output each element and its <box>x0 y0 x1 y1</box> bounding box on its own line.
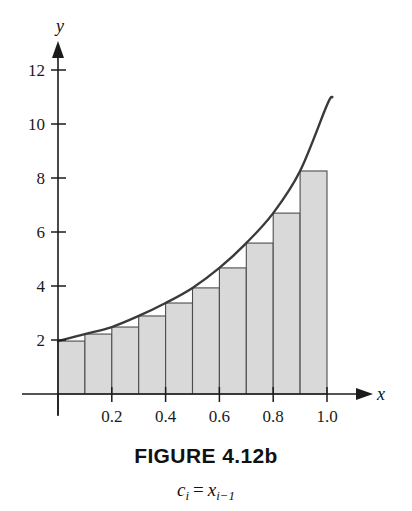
y-tick-label: 12 <box>28 61 45 80</box>
x-axis-label: x <box>376 384 385 404</box>
y-tick-label: 2 <box>37 331 46 350</box>
y-axis-label: y <box>54 16 64 36</box>
x-tick-label: 0.4 <box>155 407 177 426</box>
y-axis-arrowhead-icon <box>52 41 64 58</box>
x-axis-arrowhead-icon <box>356 388 373 400</box>
x-tick-label: 0.8 <box>263 407 284 426</box>
x-tick-label: 0.2 <box>101 407 122 426</box>
riemann-rectangle <box>273 213 300 394</box>
riemann-rectangle <box>58 341 85 394</box>
x-tick-label: 0.6 <box>209 407 230 426</box>
subcaption-x-subscript: i−1 <box>216 488 235 503</box>
riemann-rectangle <box>166 303 193 394</box>
x-tick-label: 1.0 <box>316 407 337 426</box>
y-tick-label: 10 <box>28 115 45 134</box>
figure-container: 246810120.20.40.60.81.0xy FIGURE 4.12b c… <box>0 0 412 511</box>
figure-subcaption: ci=xi−1 <box>0 479 412 504</box>
riemann-rectangle <box>85 334 112 394</box>
riemann-rectangle <box>300 171 327 394</box>
subcaption-equals: = <box>189 479 208 500</box>
riemann-rectangle <box>112 327 139 394</box>
riemann-rectangle <box>139 316 166 394</box>
riemann-rectangle <box>219 268 246 394</box>
figure-caption: FIGURE 4.12b <box>0 444 412 468</box>
y-tick-label: 8 <box>37 169 46 188</box>
riemann-sum-plot: 246810120.20.40.60.81.0xy <box>0 0 412 440</box>
riemann-rectangle <box>193 288 220 394</box>
bars-group <box>58 171 327 394</box>
subcaption-x: x <box>208 479 216 500</box>
y-tick-label: 6 <box>37 223 46 242</box>
riemann-rectangle <box>246 243 273 394</box>
y-tick-label: 4 <box>37 277 46 296</box>
